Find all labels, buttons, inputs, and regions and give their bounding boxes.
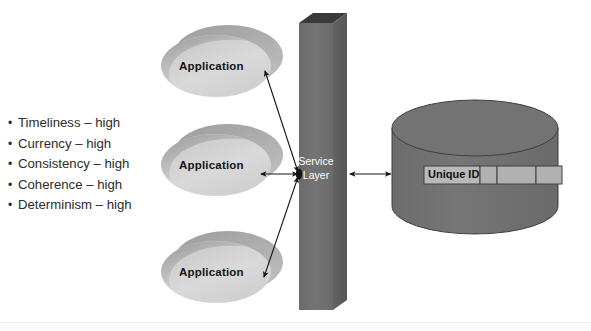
list-item-label: Consistency – high [18, 156, 129, 171]
unique-id-row[interactable] [424, 166, 562, 184]
service-layer-box[interactable] [299, 13, 347, 310]
service-layer-connection-point [296, 168, 302, 179]
diagram-canvas: •Timeliness – high •Currency – high •Con… [0, 0, 591, 331]
list-item-label: Currency – high [18, 136, 111, 151]
list-bullet: • [8, 135, 18, 155]
list-item: •Consistency – high [8, 154, 168, 175]
list-item-label: Determinism – high [18, 197, 132, 212]
service-box-side-face [333, 13, 347, 310]
list-bullet: • [8, 176, 18, 196]
service-box-front-face [299, 23, 333, 310]
list-item-label: Timeliness – high [18, 115, 120, 130]
application-node-3[interactable] [161, 231, 283, 303]
list-bullet: • [8, 196, 18, 216]
list-item: •Currency – high [8, 134, 168, 155]
unique-id-key-cell [424, 166, 480, 184]
cylinder-top-disc [392, 100, 558, 156]
unique-id-empty-cell-2 [497, 166, 536, 184]
unique-id-empty-cell-1 [480, 166, 497, 184]
application-node-2[interactable] [161, 124, 283, 196]
bottom-edge-band [0, 322, 591, 331]
list-bullet: • [8, 155, 18, 175]
list-item-label: Coherence – high [18, 177, 122, 192]
list-item: •Determinism – high [8, 195, 168, 216]
list-item: •Timeliness – high [8, 113, 168, 134]
list-bullet: • [8, 114, 18, 134]
unique-id-empty-cell-3 [536, 166, 562, 184]
application-node-1[interactable] [161, 25, 283, 97]
data-quality-attributes-list: •Timeliness – high •Currency – high •Con… [8, 113, 168, 216]
list-item: •Coherence – high [8, 175, 168, 196]
